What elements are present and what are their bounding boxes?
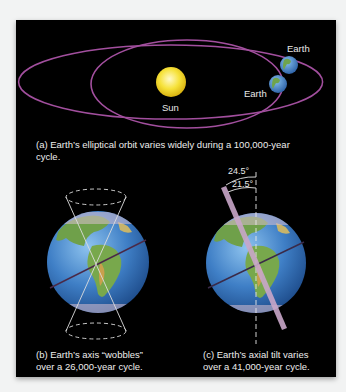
sun-label: Sun: [162, 102, 179, 113]
earth-outer-icon: [280, 56, 298, 74]
sun-icon: [156, 67, 186, 97]
caption-a: (a) Earth’s elliptical orbit varies wide…: [36, 139, 290, 163]
orbit-diagram: [19, 40, 323, 128]
precession-ellipse-top: [66, 189, 126, 205]
globe-wobble: [47, 189, 158, 339]
orbit-circular: [91, 40, 283, 128]
angle-label-min: 21.5°: [232, 179, 253, 190]
earth-inner-icon: [269, 75, 287, 93]
figure-artwork: [0, 0, 346, 392]
caption-b: (b) Earth’s axis “wobbles” over a 26,000…: [36, 349, 143, 373]
caption-c: (c) Earth’s axial tilt varies over a 41,…: [203, 349, 310, 373]
globe-tilt: [206, 172, 316, 344]
precession-ellipse-bottom: [66, 323, 126, 339]
angle-label-max: 24.5°: [228, 166, 249, 177]
earth-label-inner: Earth: [244, 88, 267, 99]
earth-label-outer: Earth: [287, 43, 310, 54]
